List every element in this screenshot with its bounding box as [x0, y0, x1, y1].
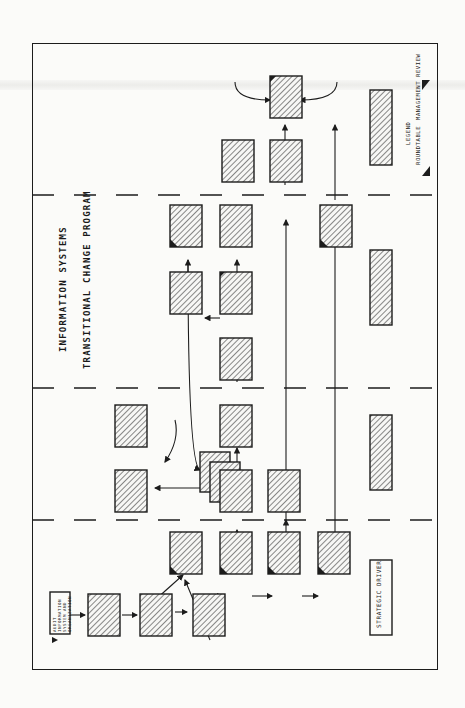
roundtable-icon: [422, 166, 430, 176]
title-line-2: TRANSITIONAL CHANGE PROGRAM: [82, 190, 92, 369]
start-box-label: AUDIT INFORMATION SYSTEM AND ORGANIZATIO…: [52, 592, 72, 632]
legend-title: LEGEND: [405, 122, 411, 145]
management-review-icon: [422, 80, 430, 90]
title-line-1: INFORMATION SYSTEMS: [58, 226, 68, 352]
legend-management-review: MANAGEMENT REVIEW: [415, 54, 421, 121]
legend-roundtable: ROUNDTABLE: [415, 126, 421, 165]
process-boxes: [50, 76, 392, 636]
row-label-strategic-driver: STRATEGIC DRIVER: [375, 561, 382, 628]
